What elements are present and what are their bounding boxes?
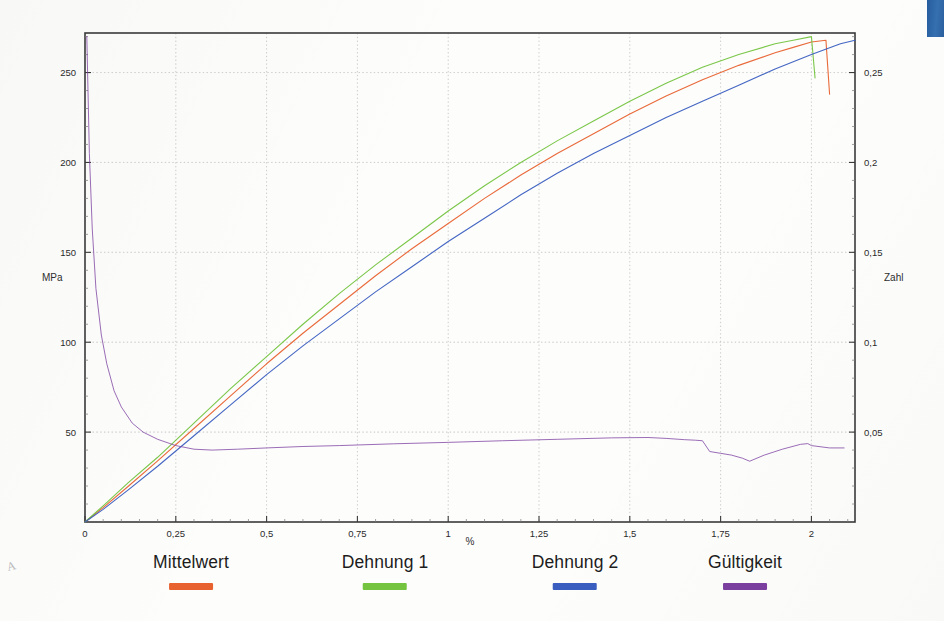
page-tab[interactable]: [927, 0, 944, 37]
legend-label: Mittelwert: [153, 552, 229, 572]
x-tick-label: 0: [82, 528, 87, 539]
y-tick-label: 250: [60, 67, 76, 78]
y2-tick-label: 0,25: [864, 67, 883, 78]
y-tick-label: 50: [65, 427, 76, 438]
axis-titles: MPa Zahl %: [42, 272, 903, 547]
gridlines: [85, 33, 855, 522]
legend-entry[interactable]: Dehnung 1: [342, 552, 429, 590]
y2-tick-label: 0,05: [864, 427, 883, 438]
y2-tick-label: 0,2: [864, 157, 877, 168]
plot-frame: [85, 33, 855, 522]
y2-tick-label: 0,1: [864, 337, 877, 348]
legend-entry[interactable]: Dehnung 2: [532, 552, 619, 590]
x-tick-label: 1,25: [530, 528, 549, 539]
x-tick-label: 0,75: [348, 528, 367, 539]
y-axis-label: MPa: [42, 272, 63, 283]
legend-color-swatch: [169, 583, 213, 590]
y2-tick-label: 0,15: [864, 247, 883, 258]
x-tick-label: 1,75: [711, 528, 730, 539]
legend-entry[interactable]: Mittelwert: [153, 552, 229, 590]
x-tick-label: 0,5: [260, 528, 273, 539]
page-canvas: 50100150200250 0,050,10,150,20,25 00,250…: [0, 0, 944, 621]
chart-svg: 50100150200250 0,050,10,150,20,25 00,250…: [0, 0, 944, 621]
y-axis-left-ticks: 50100150200250: [60, 37, 91, 504]
legend-label: Dehnung 2: [532, 552, 619, 572]
y-tick-label: 200: [60, 157, 76, 168]
legend-color-swatch: [363, 583, 407, 590]
x-tick-label: 1: [446, 528, 451, 539]
chart-legend: MittelwertDehnung 1Dehnung 2Gültigkeit: [85, 552, 875, 610]
x-tick-label: 2: [809, 528, 814, 539]
legend-label: Dehnung 1: [342, 552, 429, 572]
series-paths: [85, 37, 855, 522]
plot-area-border: [85, 33, 855, 522]
x-tick-label: 1,5: [623, 528, 636, 539]
series-line-g-ltigkeit: [87, 37, 844, 462]
legend-label: Gültigkeit: [708, 552, 782, 572]
x-tick-label: 0,25: [167, 528, 186, 539]
chart-figure: 50100150200250 0,050,10,150,20,25 00,250…: [0, 0, 944, 621]
y2-axis-label: Zahl: [884, 272, 903, 283]
legend-color-swatch: [553, 583, 597, 590]
x-axis-label: %: [466, 536, 475, 547]
y-tick-label: 150: [60, 247, 76, 258]
y-tick-label: 100: [60, 337, 76, 348]
legend-entry[interactable]: Gültigkeit: [708, 552, 782, 590]
legend-color-swatch: [723, 583, 767, 590]
y-axis-right-ticks: 0,050,10,150,20,25: [849, 37, 883, 504]
